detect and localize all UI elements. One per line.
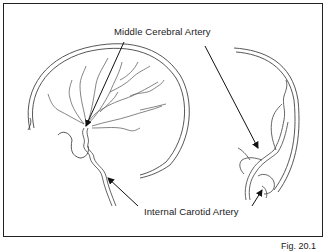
frontal-vessels (238, 80, 288, 200)
internal-carotid-artery-label: Internal Carotid Artery (144, 206, 239, 217)
middle-cerebral-artery-label: Middle Cerebral Artery (114, 26, 211, 37)
ica-arrow-lateral (108, 178, 138, 206)
lateral-mca-branches (48, 58, 166, 131)
mca-arrow-frontal (205, 46, 258, 148)
figure-caption: Fig. 20.1 (281, 241, 316, 251)
ica-arrow-frontal (252, 190, 262, 206)
mca-arrow-lateral (86, 42, 124, 126)
lateral-internal-carotid (83, 128, 116, 206)
lateral-skull-outline (28, 44, 189, 178)
